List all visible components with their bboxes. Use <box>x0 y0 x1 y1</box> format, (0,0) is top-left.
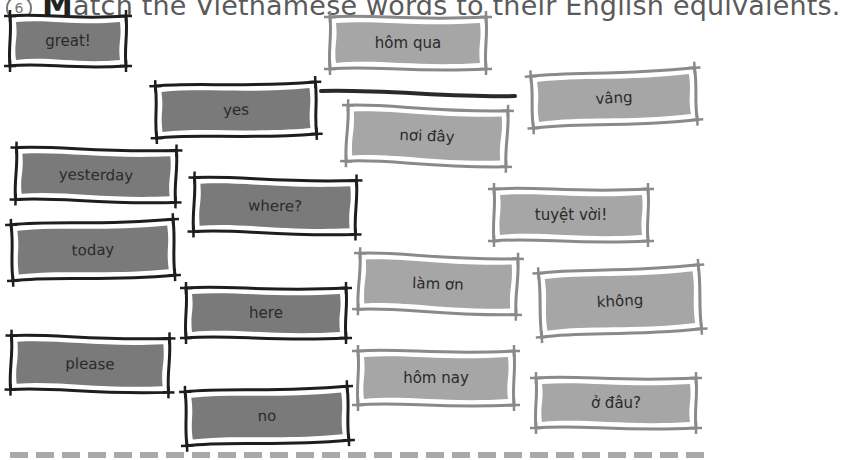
card-label: where? <box>190 196 360 217</box>
vietnamese-word-card[interactable]: nơi đây <box>342 101 512 171</box>
card-label: ở đâu? <box>532 394 700 412</box>
card-label: yesterday <box>12 165 180 186</box>
card-label: hôm nay <box>354 369 518 387</box>
english-word-card[interactable]: great! <box>6 12 130 70</box>
card-label: great! <box>6 32 130 50</box>
card-label: tuyệt vời! <box>490 206 652 224</box>
dashed-rule-divider <box>10 452 704 458</box>
english-word-card[interactable]: today <box>7 215 179 285</box>
english-word-card[interactable]: here <box>182 284 350 342</box>
vietnamese-word-card[interactable]: ở đâu? <box>532 374 700 432</box>
vietnamese-word-card[interactable]: hôm nay <box>354 347 518 409</box>
english-word-card[interactable]: yes <box>151 78 321 142</box>
english-word-card[interactable]: please <box>6 332 173 397</box>
card-label: hôm qua <box>326 34 490 52</box>
english-word-card[interactable]: where? <box>189 174 360 239</box>
card-label: here <box>182 304 350 322</box>
english-word-card[interactable]: yesterday <box>11 144 180 207</box>
vietnamese-word-card[interactable]: không <box>534 261 706 342</box>
vietnamese-word-card[interactable]: tuyệt vời! <box>490 185 652 245</box>
vietnamese-word-card[interactable]: hôm qua <box>326 13 490 73</box>
english-word-card[interactable]: no <box>181 382 353 450</box>
card-label: please <box>7 354 173 375</box>
vietnamese-word-card[interactable]: làm ơn <box>354 249 522 319</box>
vietnamese-word-card[interactable]: vâng <box>527 64 702 133</box>
